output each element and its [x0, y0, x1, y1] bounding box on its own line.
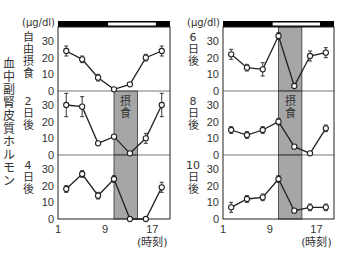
data-point	[159, 48, 164, 53]
data-point	[80, 171, 85, 176]
data-point	[307, 53, 312, 58]
data-point	[143, 216, 148, 221]
unit-label: (μg/dl)	[187, 17, 220, 28]
data-point	[127, 216, 132, 221]
data-point	[111, 87, 116, 92]
data-point	[159, 102, 164, 107]
data-point	[292, 208, 297, 213]
panel-label: 8日後	[188, 95, 199, 132]
data-point	[95, 141, 100, 146]
x-tick: 9	[267, 223, 273, 235]
feeding-label: 摂食	[285, 94, 296, 120]
data-point	[260, 127, 265, 132]
data-point	[111, 176, 116, 181]
x-axis-label: (時刻)	[137, 235, 168, 249]
x-tick: 17	[310, 223, 322, 235]
data-point	[292, 83, 297, 88]
data-point	[276, 119, 281, 124]
y-tick: 10	[207, 196, 219, 208]
data-point	[229, 205, 234, 210]
data-point	[260, 67, 265, 72]
data-point	[307, 151, 312, 156]
y-tick: 10	[42, 132, 54, 144]
y-tick: 0	[213, 149, 219, 161]
data-point	[323, 126, 328, 131]
feeding-label: 摂食	[120, 94, 131, 120]
data-point	[260, 195, 265, 200]
data-point	[64, 48, 69, 53]
y-tick: 30	[207, 99, 219, 111]
y-tick: 10	[207, 68, 219, 80]
x-tick: 1	[220, 223, 226, 235]
panel-label: 6日後	[188, 31, 199, 68]
y-tick: 30	[42, 163, 54, 175]
x-tick: 9	[102, 223, 108, 235]
y-tick: 20	[42, 116, 54, 128]
y-tick: 0	[213, 213, 219, 225]
panel-label: 自由摂食	[23, 31, 34, 80]
data-point	[307, 205, 312, 210]
data-point	[80, 57, 85, 62]
light-period-bar	[273, 23, 320, 26]
y-tick: 20	[42, 52, 54, 64]
y-tick: 20	[42, 180, 54, 192]
data-point	[143, 136, 148, 141]
y-tick: 10	[42, 68, 54, 80]
panel-label: 2日後	[23, 95, 34, 132]
data-point	[276, 33, 281, 38]
x-axis-label: (時刻)	[301, 235, 332, 249]
data-point	[64, 102, 69, 107]
data-point	[80, 104, 85, 109]
data-point	[111, 134, 116, 139]
data-point	[244, 196, 249, 201]
data-point	[244, 65, 249, 70]
y-tick: 30	[42, 99, 54, 111]
y-tick: 0	[48, 85, 54, 97]
panel-label: 4日後	[23, 159, 34, 196]
light-period-bar	[108, 23, 156, 26]
data-point	[143, 55, 148, 60]
y-tick: 20	[207, 52, 219, 64]
data-point	[64, 186, 69, 191]
data-point	[95, 193, 100, 198]
data-point	[229, 127, 234, 132]
chart-canvas: 摂食0102030自由摂食01020302日後01020304日後1917(時刻…	[0, 0, 343, 255]
data-point	[292, 144, 297, 149]
y-tick: 0	[48, 149, 54, 161]
y-tick: 30	[207, 35, 219, 47]
x-tick: 17	[146, 223, 158, 235]
x-tick: 1	[55, 223, 61, 235]
y-tick: 30	[42, 35, 54, 47]
y-tick: 20	[207, 180, 219, 192]
data-point	[244, 132, 249, 137]
data-point	[127, 151, 132, 156]
data-point	[323, 205, 328, 210]
y-tick: 10	[42, 196, 54, 208]
data-point	[159, 185, 164, 190]
unit-label: (μg/dl)	[22, 17, 55, 28]
data-point	[276, 176, 281, 181]
data-point	[95, 75, 100, 80]
y-tick: 0	[213, 85, 219, 97]
y-tick: 10	[207, 132, 219, 144]
y-tick: 0	[48, 213, 54, 225]
data-point	[323, 50, 328, 55]
feeding-band	[279, 27, 302, 91]
y-axis-label: 血中副腎皮質ホルモン	[3, 57, 15, 188]
panel-label: 10日後	[186, 159, 200, 196]
data-point	[127, 82, 132, 87]
y-tick: 30	[207, 163, 219, 175]
y-tick: 20	[207, 116, 219, 128]
data-point	[229, 52, 234, 57]
